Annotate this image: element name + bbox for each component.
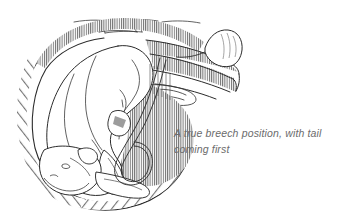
breech-position-illustration — [0, 0, 355, 223]
illustration-page: A true breech position, with tail coming… — [0, 0, 355, 223]
figure-caption: A true breech position, with tail coming… — [174, 125, 349, 157]
